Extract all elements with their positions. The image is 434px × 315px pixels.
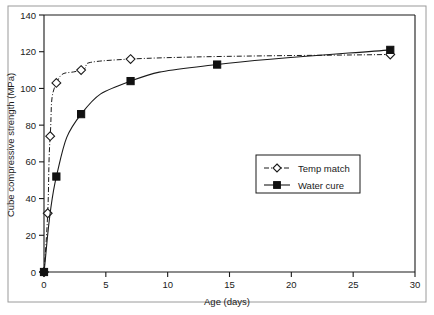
- y-tick-label: 100: [20, 83, 36, 94]
- y-tick-label: 0: [31, 267, 36, 278]
- y-tick-label: 20: [25, 230, 36, 241]
- x-tick-label: 0: [41, 279, 46, 290]
- x-tick-label: 15: [224, 279, 235, 290]
- legend-marker-sample: [274, 182, 281, 189]
- x-tick-label: 5: [103, 279, 108, 290]
- x-axis-title: Age (days): [204, 296, 250, 307]
- data-point-marker: [387, 46, 394, 53]
- y-tick-label: 120: [20, 46, 36, 57]
- data-point-marker: [53, 173, 60, 180]
- legend-item-temp-match[interactable]: Temp match: [264, 163, 350, 174]
- x-tick-label: 25: [348, 279, 359, 290]
- data-point-marker: [40, 268, 47, 275]
- cube-compressive-strength-chart: 051015202530 020406080100120140 Age (day…: [0, 0, 434, 315]
- x-tick-label: 10: [162, 279, 173, 290]
- y-tick-label: 40: [25, 193, 36, 204]
- chart-background: [0, 0, 434, 315]
- data-point-marker: [127, 77, 134, 84]
- y-tick-label: 140: [20, 10, 36, 21]
- data-point-marker: [214, 61, 221, 68]
- legend-label: Water cure: [298, 180, 344, 191]
- chart-legend: Temp matchWater cure: [256, 155, 360, 193]
- legend-label: Temp match: [298, 163, 350, 174]
- x-tick-label: 30: [410, 279, 421, 290]
- y-axis-title: Cube compressive strength (MPa): [5, 73, 16, 217]
- y-tick-label: 60: [25, 156, 36, 167]
- chart-figure: 051015202530 020406080100120140 Age (day…: [0, 0, 434, 315]
- legend-item-water-cure[interactable]: Water cure: [264, 180, 344, 191]
- data-point-marker: [78, 111, 85, 118]
- y-tick-label: 80: [25, 120, 36, 131]
- x-tick-label: 20: [286, 279, 297, 290]
